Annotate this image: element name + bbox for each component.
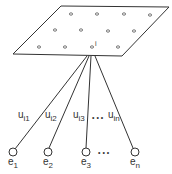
output-label-e2: e2	[43, 156, 54, 170]
diagram-canvas: i ui1 ui2 ui3 • • • uin • • • e1 e	[0, 0, 172, 174]
output-label-e1: e1	[8, 156, 19, 170]
node-ellipsis: • • •	[98, 149, 110, 156]
weight-label-ui3: ui3	[73, 109, 85, 123]
output-labels: e1 e2 e3 en	[8, 156, 140, 170]
connection-lines	[15, 56, 133, 149]
weight-ellipsis: • • •	[92, 114, 104, 121]
output-label-e3: e3	[81, 156, 92, 170]
weight-labels: ui1 ui2 ui3 • • • uin	[18, 109, 120, 123]
output-node-e3	[82, 148, 90, 156]
center-node-label: i	[95, 40, 97, 47]
output-node-e2	[44, 148, 52, 156]
output-node-e1	[9, 148, 17, 156]
output-label-en: en	[130, 156, 140, 170]
input-plane	[13, 6, 169, 56]
output-nodes	[9, 148, 139, 156]
weight-label-ui1: ui1	[18, 109, 30, 123]
weight-label-ui2: ui2	[45, 109, 57, 123]
output-node-en	[131, 148, 139, 156]
